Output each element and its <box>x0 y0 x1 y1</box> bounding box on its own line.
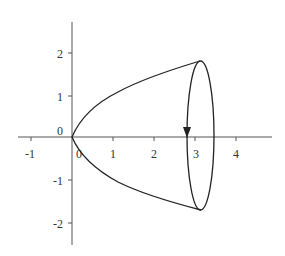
y-tick-label: 0 <box>57 124 63 138</box>
x-tick-label: 3 <box>193 147 199 161</box>
x-tick-label: -1 <box>25 147 35 161</box>
x-tick-label: 1 <box>110 147 116 161</box>
x-tick-label: 2 <box>151 147 157 161</box>
y-ticks <box>68 53 72 223</box>
y-tick-label: 1 <box>57 90 63 104</box>
x-tick-label: 4 <box>233 147 239 161</box>
y-tick-label: 2 <box>57 47 63 61</box>
ellipse-loop <box>187 61 214 210</box>
arrow-down-icon <box>183 127 191 138</box>
y-tick-label: -1 <box>53 174 63 188</box>
y-tick-label: -2 <box>53 217 63 231</box>
chart: -1 0 1 2 3 4 2 1 0 -1 -2 <box>0 0 285 256</box>
parabolic-curve <box>72 61 201 210</box>
